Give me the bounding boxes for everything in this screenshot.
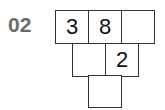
cell-r2-c2[interactable]: 2 xyxy=(105,43,139,77)
puzzle-number: 02 xyxy=(8,13,31,37)
cell-r1-c1[interactable]: 3 xyxy=(55,10,89,44)
cell-r1-c2[interactable]: 8 xyxy=(88,10,122,44)
cell-r2-c1[interactable] xyxy=(72,43,106,77)
cell-r3-c1[interactable] xyxy=(88,75,122,108)
cell-r1-c3[interactable] xyxy=(121,10,155,44)
